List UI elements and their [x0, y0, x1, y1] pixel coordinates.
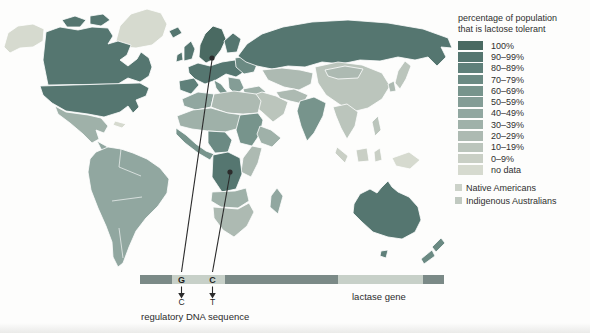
legend-swatch-90 — [458, 52, 483, 62]
legend-swatch-60 — [458, 86, 483, 96]
map-region-ireland — [176, 52, 183, 62]
legend-swatch-70 — [458, 75, 483, 85]
map-region-canada-arctic-2 — [90, 14, 110, 26]
map-region-nigeria — [208, 131, 232, 153]
legend-swatch-100 — [458, 41, 483, 51]
map-region-japan — [395, 61, 411, 89]
legend-label-10: 10–19% — [491, 142, 524, 152]
gene-bar-segment-dark-2 — [225, 275, 338, 284]
legend-swatch-30 — [458, 120, 483, 130]
legend-title-line2: that is lactose tolerant — [458, 24, 588, 35]
map-region-new-guinea — [392, 152, 420, 169]
gene-bar-segment-dark-1 — [140, 275, 172, 284]
regulatory-sequence-label: regulatory DNA sequence — [141, 311, 249, 322]
map-region-iceland — [169, 27, 182, 38]
page-bottom-shade — [0, 323, 590, 333]
legend-label-80: 80–89% — [491, 63, 524, 73]
map-region-maghreb — [182, 92, 214, 110]
map-region-borneo — [356, 148, 369, 162]
legend-row-indigenous-australians: Indigenous Australians — [455, 195, 588, 207]
map-region-new-zealand-north — [432, 238, 445, 252]
map-region-philippines — [372, 116, 381, 136]
map-region-new-zealand-south — [421, 250, 435, 264]
map-region-east-africa — [241, 146, 262, 177]
map-region-iberia — [179, 78, 199, 94]
legend-row-70: 70–79% — [455, 74, 588, 85]
legend-label-0: 0–9% — [491, 154, 514, 164]
legend-label-20: 20–29% — [491, 131, 524, 141]
legend-label-native-americans: Native Americans — [466, 183, 536, 193]
legend-row-nodata: no data — [455, 164, 588, 175]
map-region-central-asia — [262, 68, 313, 90]
map-region-india — [297, 97, 326, 141]
legend-row-0: 0–9% — [455, 153, 588, 164]
legend-label-indigenous-australians: Indigenous Australians — [466, 196, 557, 206]
legend-row-native-americans: Native Americans — [455, 182, 588, 194]
map-region-horn-of-africa — [257, 126, 281, 147]
legend-label-70: 70–79% — [491, 75, 524, 85]
map-region-madagascar — [270, 188, 283, 214]
legend-label-30: 30–39% — [491, 120, 524, 130]
allele-g: G — [176, 275, 188, 285]
gene-bar-segment-dark-3 — [423, 275, 444, 284]
legend-extra: Native Americans Indigenous Australians — [455, 182, 588, 207]
legend-title-line1: percentage of population — [458, 13, 588, 24]
legend-row-10: 10–19% — [455, 142, 588, 153]
legend-row-90: 90–99% — [455, 51, 588, 62]
legend-swatch-10 — [458, 143, 483, 153]
map-region-sulawesi — [374, 148, 382, 162]
map-region-usa — [40, 83, 149, 117]
legend-swatch-20 — [458, 131, 483, 141]
variant-c: C — [176, 297, 188, 307]
legend-row-30: 30–39% — [455, 119, 588, 130]
map-region-southeast-asia — [333, 104, 358, 139]
legend-row-50: 50–59% — [455, 96, 588, 107]
legend-label-nodata: no data — [491, 165, 521, 175]
legend-title: percentage of population that is lactose… — [458, 13, 588, 34]
map-region-finland — [224, 33, 241, 53]
legend-swatch-50 — [458, 97, 483, 107]
map-region-uk — [184, 41, 195, 61]
map-region-drc — [212, 152, 242, 192]
legend-row-60: 60–69% — [455, 85, 588, 96]
lactase-gene-label: lactase gene — [352, 291, 406, 302]
legend-row-80: 80–89% — [455, 63, 588, 74]
map-region-canada-arctic-1 — [62, 16, 86, 27]
legend-swatch-0 — [458, 154, 483, 164]
legend-items: 100% 90–99% 80–89% 70–79% 60–69% 50–59% … — [455, 40, 588, 176]
annotation-dot-drc — [227, 169, 232, 174]
legend-swatch-80 — [458, 63, 483, 73]
map-region-angola-zambia — [211, 188, 249, 208]
variant-t: T — [207, 297, 219, 307]
map-region-tasmania — [380, 250, 388, 258]
map-region-australia — [353, 181, 421, 239]
legend-swatch-native-americans — [455, 184, 462, 191]
map-region-sumatra — [335, 147, 348, 163]
legend-label-50: 50–59% — [491, 97, 524, 107]
gene-bar-segment-lactase — [338, 275, 423, 284]
legend-label-100: 100% — [491, 41, 514, 51]
legend-row-40: 40–49% — [455, 108, 588, 119]
legend-row-20: 20–29% — [455, 130, 588, 141]
map-legend: percentage of population that is lactose… — [455, 13, 588, 207]
legend-label-60: 60–69% — [491, 86, 524, 96]
annotation-dot-scandinavia — [209, 55, 214, 60]
lactose-tolerance-figure: percentage of population that is lactose… — [0, 0, 590, 333]
legend-swatch-40 — [458, 109, 483, 119]
allele-c: C — [207, 275, 219, 285]
map-region-alaska — [4, 24, 44, 53]
map-region-russia — [238, 20, 452, 69]
legend-label-40: 40–49% — [491, 108, 524, 118]
legend-swatch-nodata — [458, 165, 483, 175]
map-region-greenland — [116, 9, 167, 48]
legend-label-90: 90–99% — [491, 52, 524, 62]
legend-swatch-indigenous-australians — [455, 197, 462, 204]
map-region-south-america — [88, 147, 169, 267]
map-region-caribbean — [113, 121, 126, 128]
legend-row-100: 100% — [455, 40, 588, 51]
